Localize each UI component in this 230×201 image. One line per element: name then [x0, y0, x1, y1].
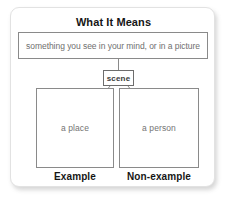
non-example-box: a person — [119, 88, 199, 168]
example-box: a place — [36, 88, 114, 168]
non-example-text: a person — [142, 123, 176, 133]
term-box: scene — [103, 70, 134, 86]
term-text: scene — [107, 74, 131, 83]
graphic-organizer-card: What It Means something you see in your … — [10, 7, 215, 187]
screen: What It Means something you see in your … — [0, 0, 230, 201]
example-text: a place — [61, 123, 89, 133]
